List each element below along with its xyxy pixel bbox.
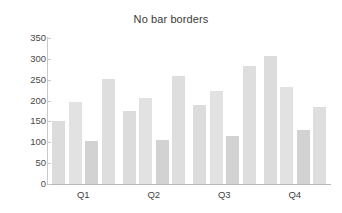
y-tick-label: 250 (0, 75, 46, 85)
plot-area (48, 38, 330, 184)
bar (313, 107, 326, 184)
bar (264, 56, 277, 184)
y-tick-label: 100 (0, 137, 46, 147)
bar (297, 130, 310, 184)
bar (123, 111, 136, 184)
bar (69, 102, 82, 184)
bar (280, 87, 293, 184)
y-tick-label: 0 (0, 179, 46, 189)
x-tick-label: Q2 (119, 190, 190, 200)
y-tick-label: 350 (0, 33, 46, 43)
bar (210, 91, 223, 184)
x-tick-label: Q3 (189, 190, 260, 200)
y-tick-label: 300 (0, 54, 46, 64)
bar (139, 98, 152, 184)
bar (85, 141, 98, 184)
bar (243, 66, 256, 184)
x-axis-line (47, 184, 331, 185)
y-tick-label: 50 (0, 158, 46, 168)
bar-chart: No bar borders 050100150200250300350 Q1Q… (0, 0, 342, 213)
bar (193, 105, 206, 184)
bar (172, 76, 185, 184)
y-tick-label: 150 (0, 116, 46, 126)
bar (52, 121, 65, 184)
bar (226, 136, 239, 184)
x-tick-label: Q4 (260, 190, 331, 200)
bar (102, 79, 115, 184)
y-tick-label: 200 (0, 96, 46, 106)
y-tick-mark (48, 184, 51, 185)
chart-title: No bar borders (0, 13, 342, 25)
bar (156, 140, 169, 184)
x-tick-label: Q1 (48, 190, 119, 200)
